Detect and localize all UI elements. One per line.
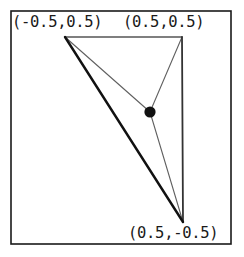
triangle-edge-hypotenuse xyxy=(65,37,183,222)
triangle-centroid-figure: (-0.5,0.5) (0.5,0.5) (0.5,-0.5) xyxy=(0,0,244,257)
coordinate-label-top-right: (0.5,0.5) xyxy=(123,15,204,31)
figure-canvas xyxy=(0,0,244,257)
coordinate-label-top-left: (-0.5,0.5) xyxy=(12,15,102,31)
median-to-top-right xyxy=(150,37,182,112)
triangle-edge-right xyxy=(182,37,183,222)
plot-border xyxy=(11,11,231,244)
median-to-bottom-right xyxy=(150,112,183,222)
centroid-point xyxy=(144,106,155,117)
coordinate-label-bottom-right: (0.5,-0.5) xyxy=(128,226,218,242)
median-to-top-left xyxy=(65,37,150,112)
